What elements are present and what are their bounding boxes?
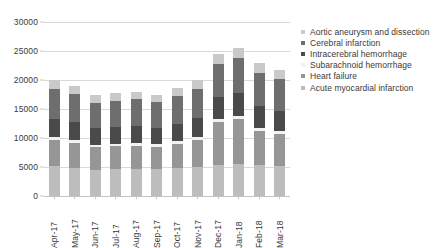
bar-segment[interactable] — [274, 134, 285, 166]
bar-column[interactable] — [249, 22, 270, 196]
bar-column[interactable] — [188, 22, 209, 196]
bar-segment[interactable] — [213, 165, 224, 196]
x-axis-tick-mark — [238, 196, 239, 199]
bar-segment[interactable] — [172, 96, 183, 124]
bar-column[interactable] — [85, 22, 106, 196]
x-axis-tick: Apr-17 — [44, 198, 65, 248]
bar-segment[interactable] — [69, 94, 80, 122]
bar-segment[interactable] — [69, 86, 80, 94]
bar-segment[interactable] — [274, 70, 285, 79]
bar-segment[interactable] — [274, 166, 285, 196]
bar-segment[interactable] — [151, 128, 162, 144]
bar-segment[interactable] — [254, 165, 265, 196]
bar-series-group — [44, 22, 290, 196]
bar-segment[interactable] — [274, 79, 285, 111]
y-axis-tick-label: 20000 — [14, 75, 38, 85]
bar-segment[interactable] — [233, 119, 244, 163]
bar-segment[interactable] — [233, 164, 244, 196]
bar-segment[interactable] — [233, 58, 244, 93]
bar-segment[interactable] — [151, 95, 162, 103]
bar-segment[interactable] — [110, 169, 121, 196]
bar-column[interactable] — [65, 22, 86, 196]
bar-segment[interactable] — [151, 102, 162, 128]
bar-segment[interactable] — [49, 89, 60, 119]
bar-segment[interactable] — [213, 97, 224, 118]
bar-segment[interactable] — [233, 93, 244, 116]
bar-segment[interactable] — [110, 127, 121, 143]
bar-segment[interactable] — [131, 99, 142, 126]
bar-segment[interactable] — [213, 64, 224, 97]
bar-segment[interactable] — [90, 95, 101, 103]
bar-segment[interactable] — [192, 118, 203, 137]
bar-column[interactable] — [106, 22, 127, 196]
bar-column[interactable] — [229, 22, 250, 196]
bar-stack[interactable] — [274, 70, 285, 196]
bar-stack[interactable] — [213, 54, 224, 196]
bar-stack[interactable] — [49, 80, 60, 196]
bar-stack[interactable] — [69, 86, 80, 196]
x-axis-tick-mark — [136, 196, 137, 199]
bar-column[interactable] — [126, 22, 147, 196]
bar-segment[interactable] — [254, 73, 265, 106]
bar-segment[interactable] — [151, 147, 162, 170]
bar-segment[interactable] — [151, 169, 162, 196]
bar-segment[interactable] — [172, 124, 183, 141]
bar-segment[interactable] — [233, 48, 244, 58]
bar-segment[interactable] — [274, 111, 285, 131]
bar-segment[interactable] — [69, 143, 80, 168]
x-axis-tick: Dec-17 — [208, 198, 229, 248]
bar-segment[interactable] — [110, 146, 121, 169]
bar-segment[interactable] — [131, 169, 142, 196]
bar-stack[interactable] — [131, 92, 142, 196]
bar-segment[interactable] — [90, 147, 101, 170]
legend-item[interactable]: Acute myocardial infarction — [301, 82, 433, 93]
x-axis-tick-label: Sep-17 — [152, 202, 162, 248]
bar-segment[interactable] — [192, 80, 203, 89]
bar-stack[interactable] — [233, 48, 244, 196]
bar-segment[interactable] — [131, 146, 142, 169]
bar-segment[interactable] — [90, 103, 101, 129]
bar-segment[interactable] — [131, 92, 142, 100]
bar-stack[interactable] — [254, 63, 265, 196]
bar-segment[interactable] — [192, 140, 203, 167]
bar-segment[interactable] — [192, 167, 203, 196]
bar-stack[interactable] — [172, 88, 183, 196]
bar-segment[interactable] — [69, 122, 80, 139]
legend-item[interactable]: Aortic aneurysm and dissection — [301, 26, 433, 37]
bar-stack[interactable] — [90, 95, 101, 196]
bar-column[interactable] — [167, 22, 188, 196]
bar-segment[interactable] — [254, 131, 265, 165]
bar-column[interactable] — [208, 22, 229, 196]
bar-stack[interactable] — [151, 95, 162, 196]
legend-item[interactable]: Cerebral infarction — [301, 37, 433, 48]
bar-segment[interactable] — [192, 89, 203, 119]
bar-segment[interactable] — [213, 122, 224, 165]
y-axis-tick-label: 30000 — [14, 17, 38, 27]
bar-segment[interactable] — [254, 63, 265, 73]
bar-segment[interactable] — [49, 140, 60, 166]
bar-segment[interactable] — [213, 54, 224, 64]
bar-column[interactable] — [44, 22, 65, 196]
bar-segment[interactable] — [49, 166, 60, 196]
bar-segment[interactable] — [69, 168, 80, 196]
bar-segment[interactable] — [110, 93, 121, 101]
bar-column[interactable] — [147, 22, 168, 196]
x-axis-tick-label: Jun-17 — [90, 202, 100, 248]
bar-segment[interactable] — [172, 88, 183, 96]
bar-segment[interactable] — [172, 168, 183, 196]
bar-segment[interactable] — [90, 170, 101, 196]
bar-segment[interactable] — [49, 80, 60, 89]
legend-item[interactable]: Heart failure — [301, 71, 433, 82]
bar-segment[interactable] — [254, 106, 265, 127]
legend-item[interactable]: Intracerebral hemorrhage — [301, 48, 433, 59]
bar-stack[interactable] — [110, 93, 121, 196]
bar-segment[interactable] — [49, 119, 60, 138]
x-axis-tick: Jun-17 — [85, 198, 106, 248]
legend-item[interactable]: Subarachnoid hemorrhage — [301, 60, 433, 71]
bar-stack[interactable] — [192, 80, 203, 196]
bar-segment[interactable] — [110, 101, 121, 127]
bar-segment[interactable] — [90, 128, 101, 144]
bar-column[interactable] — [270, 22, 291, 196]
bar-segment[interactable] — [131, 126, 142, 143]
bar-segment[interactable] — [172, 144, 183, 168]
